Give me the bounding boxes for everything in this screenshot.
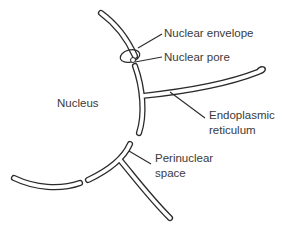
envelope-segment-bottom-left bbox=[14, 178, 80, 187]
leader-perinuclear-space bbox=[129, 151, 151, 164]
envelope-segment-middle bbox=[135, 66, 263, 133]
nuclear-envelope-diagram: .tube-o { fill: none; stroke: #2b2b2b; s… bbox=[0, 0, 285, 230]
label-perinuclear-line2: space bbox=[155, 167, 186, 180]
label-endoplasmic-line1: Endoplasmic bbox=[209, 109, 275, 122]
label-nuclear-envelope: Nuclear envelope bbox=[164, 27, 254, 40]
leader-nuclear-envelope bbox=[138, 34, 162, 48]
label-perinuclear-line1: Perinuclear bbox=[155, 152, 213, 165]
label-endoplasmic-line2: reticulum bbox=[209, 124, 256, 137]
nuclear-pore bbox=[131, 58, 136, 63]
leader-endoplasmic-reticulum bbox=[170, 92, 205, 118]
label-nucleus: Nucleus bbox=[57, 97, 99, 110]
label-nuclear-pore: Nuclear pore bbox=[164, 51, 230, 64]
